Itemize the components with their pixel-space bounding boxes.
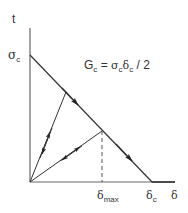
unload-arrow-1 <box>42 128 52 154</box>
x-axis-label: δ <box>171 189 178 202</box>
traction-separation-diagram: t σc Gc = σcδc / 2 δmax δc δ <box>0 0 188 213</box>
unload-arrow-2 <box>62 146 82 160</box>
y-axis-label: t <box>12 12 16 26</box>
sigma-c-label: σc <box>8 48 20 64</box>
envelope-arrow-2 <box>116 144 132 161</box>
softening-line <box>30 55 152 182</box>
fracture-energy-equation: Gc = σcδc / 2 <box>84 58 150 74</box>
delta-max-label: δmax <box>97 189 119 204</box>
delta-c-label: δc <box>146 189 157 204</box>
